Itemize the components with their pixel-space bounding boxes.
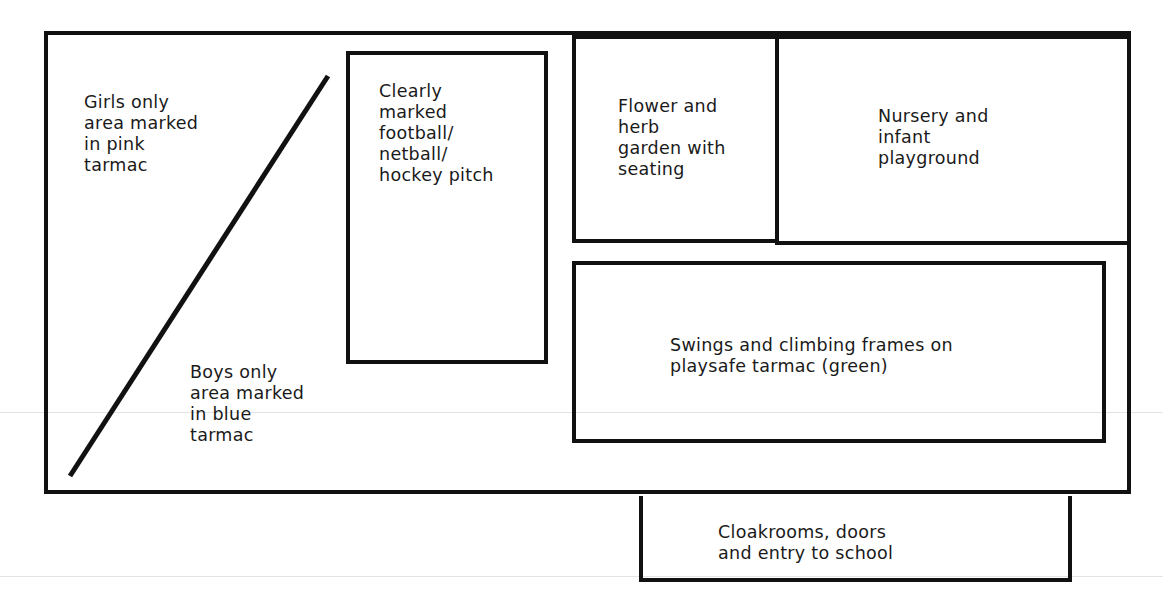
pitch-area-label: Clearly marked football/ netball/ hockey… bbox=[379, 81, 494, 186]
garden-area-label: Flower and herb garden with seating bbox=[618, 96, 726, 180]
boys-area-label: Boys only area marked in blue tarmac bbox=[190, 362, 304, 446]
entry-area-label: Cloakrooms, doors and entry to school bbox=[718, 522, 893, 564]
girls-area-label: Girls only area marked in pink tarmac bbox=[84, 92, 198, 176]
nursery-area-label: Nursery and infant playground bbox=[878, 106, 989, 169]
swings-area-label: Swings and climbing frames on playsafe t… bbox=[670, 335, 953, 377]
